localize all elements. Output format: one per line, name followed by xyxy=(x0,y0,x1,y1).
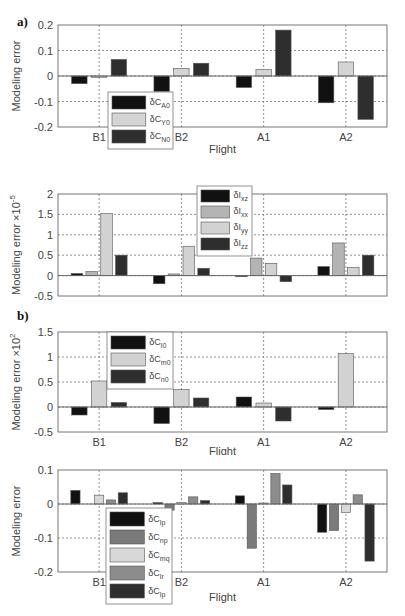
legend-swatch xyxy=(201,206,230,218)
y-tick-label: -0.1 xyxy=(34,96,53,108)
bar xyxy=(91,381,106,407)
bar xyxy=(353,495,362,504)
bar xyxy=(193,398,208,407)
x-tick-label: B1 xyxy=(92,576,105,588)
bar xyxy=(72,407,87,415)
bar xyxy=(189,497,198,504)
bar xyxy=(256,70,271,76)
y-tick-label: 1.5 xyxy=(38,208,53,220)
x-tick-label: A2 xyxy=(339,436,352,448)
chart-b-bottom: -0.2-0.100.1B1B2A1A2δClpδCnpδCmqδClrδClp… xyxy=(0,460,405,610)
legend-swatch xyxy=(201,238,230,250)
bar xyxy=(183,246,195,275)
bar xyxy=(174,390,189,408)
bar xyxy=(318,267,330,276)
bar xyxy=(318,504,327,532)
legend-swatch xyxy=(111,370,145,383)
y-tick-label: 1.5 xyxy=(38,326,53,338)
y-axis-label: Modeling error ×102 xyxy=(8,333,22,431)
bar xyxy=(362,255,374,275)
y-tick-label: 0.2 xyxy=(38,19,53,31)
bar xyxy=(154,76,169,91)
bar xyxy=(276,407,291,421)
chart-b-top: -0.500.511.5B1B2A1A2δCl0δCm0δCn0FlightMo… xyxy=(0,305,405,455)
y-tick-label: -0.2 xyxy=(34,121,53,133)
y-tick-label: 0 xyxy=(47,401,53,413)
y-tick-label: -0.5 xyxy=(34,290,53,300)
y-tick-label: 1 xyxy=(47,229,53,241)
bar xyxy=(333,243,345,276)
chart-a-top: -0.2-0.100.10.2B1B2A1A2δCA0δCY0δCN0Fligh… xyxy=(0,0,405,160)
x-axis-label: Flight xyxy=(209,445,236,455)
y-tick-label: 0 xyxy=(47,498,53,510)
bar xyxy=(329,504,338,531)
bar xyxy=(198,268,210,275)
bar xyxy=(236,397,251,407)
legend-swatch xyxy=(201,190,230,202)
x-tick-label: B1 xyxy=(92,131,105,143)
bar xyxy=(86,272,98,276)
bar xyxy=(256,403,271,407)
x-tick-label: A1 xyxy=(257,436,270,448)
y-tick-label: 0.5 xyxy=(38,376,53,388)
bar xyxy=(118,493,127,504)
bar xyxy=(193,63,208,76)
x-tick-label: A2 xyxy=(339,576,352,588)
y-tick-label: 0.1 xyxy=(38,464,53,476)
x-tick-label: A1 xyxy=(257,576,270,588)
legend-swatch xyxy=(112,96,146,109)
bar xyxy=(348,267,360,275)
x-tick-label: A1 xyxy=(257,131,270,143)
bar xyxy=(95,495,104,504)
bar xyxy=(358,76,373,119)
bar xyxy=(283,485,292,504)
x-tick-label: A2 xyxy=(339,131,352,143)
bar xyxy=(71,490,80,504)
bar xyxy=(271,473,280,504)
legend-swatch xyxy=(110,566,144,580)
legend-swatch xyxy=(110,584,144,598)
y-tick-label: 0 xyxy=(47,270,53,282)
bar xyxy=(365,504,374,561)
y-tick-label: -0.5 xyxy=(34,426,53,438)
legend-swatch xyxy=(111,336,145,349)
bar xyxy=(101,214,113,276)
y-axis-label: Modeling error ×10-5 xyxy=(8,195,22,295)
y-tick-label: 0 xyxy=(47,70,53,82)
x-tick-label: B1 xyxy=(92,436,105,448)
y-axis-label: Modeling error xyxy=(10,485,22,556)
y-tick-label: -0.1 xyxy=(34,532,53,544)
x-axis-label: Flight xyxy=(209,591,236,603)
bar xyxy=(174,68,189,76)
y-tick-label: 0.1 xyxy=(38,45,53,57)
y-tick-label: 1 xyxy=(47,351,53,363)
bar xyxy=(111,403,126,408)
bar xyxy=(247,504,256,548)
bar xyxy=(72,76,87,84)
legend-swatch xyxy=(110,512,144,526)
x-tick-label: B2 xyxy=(175,436,188,448)
legend-swatch xyxy=(112,130,146,143)
legend-swatch xyxy=(110,548,144,562)
bar xyxy=(276,30,291,76)
bar xyxy=(106,500,115,504)
bar xyxy=(338,62,353,76)
x-tick-label: B2 xyxy=(175,576,188,588)
bar xyxy=(154,407,169,424)
y-tick-label: 2 xyxy=(47,188,53,200)
bar xyxy=(236,76,251,87)
bar xyxy=(153,276,165,284)
legend-swatch xyxy=(110,530,144,544)
bar xyxy=(250,258,262,276)
bar xyxy=(341,504,350,513)
x-tick-label: B2 xyxy=(175,131,188,143)
chart-a-bottom: -0.500.511.52B1B2A1A2δIxzδIxxδIyyδIzzFli… xyxy=(0,150,405,300)
y-tick-label: -0.2 xyxy=(34,566,53,578)
bar xyxy=(111,59,126,76)
y-tick-label: 0.5 xyxy=(38,249,53,261)
y-axis-label: Modeling error xyxy=(10,40,22,111)
legend-swatch xyxy=(112,113,146,126)
bar xyxy=(235,496,244,504)
bar xyxy=(116,255,128,275)
legend-swatch xyxy=(201,222,230,234)
